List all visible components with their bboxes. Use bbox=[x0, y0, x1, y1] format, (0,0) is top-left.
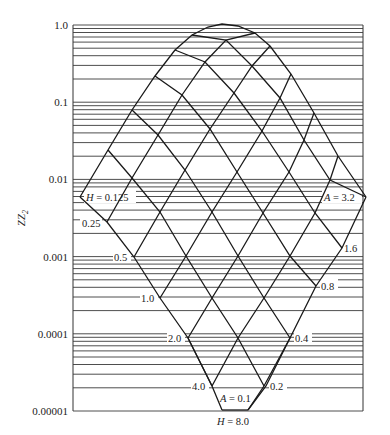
label-a-32: A = 3.2 bbox=[323, 192, 355, 203]
label-a-04: 0.4 bbox=[295, 333, 309, 344]
label-h-80: H = 8.0 bbox=[216, 416, 249, 427]
label-a-08: 0.8 bbox=[321, 281, 334, 292]
label-h-025: 0.25 bbox=[82, 218, 100, 229]
label-a-02: 0.2 bbox=[270, 381, 283, 392]
label-h-10: 1.0 bbox=[141, 293, 154, 304]
label-a-01: A = 0.1 bbox=[219, 393, 251, 404]
y-tick-1: 1.0 bbox=[54, 19, 68, 31]
right-lower-boundary bbox=[248, 197, 366, 410]
y-tick-0.0001: 0.0001 bbox=[38, 328, 68, 340]
y-axis-label: ZZ2 bbox=[15, 210, 30, 226]
falling-line-4 bbox=[175, 50, 342, 248]
y-tick-0.01: 0.01 bbox=[49, 173, 68, 185]
label-a-16: 1.6 bbox=[344, 243, 357, 254]
y-tick-labels: 1.0 0.1 0.01 0.001 0.0001 0.00001 bbox=[32, 19, 68, 417]
nomograph-lattice bbox=[80, 24, 366, 410]
a-labels: A = 3.2 1.6 0.8 0.4 0.2 A = 0.1 bbox=[219, 192, 357, 404]
y-tick-0.001: 0.001 bbox=[43, 251, 68, 263]
h-labels: H = 0.125 0.25 0.5 1.0 2.0 4.0 H = 8.0 bbox=[82, 192, 249, 427]
y-tick-0.1: 0.1 bbox=[54, 96, 68, 108]
label-h-05: 0.5 bbox=[114, 252, 127, 263]
label-h-20: 2.0 bbox=[168, 333, 181, 344]
rising-line-4 bbox=[188, 113, 314, 338]
label-h-0125: H = 0.125 bbox=[85, 192, 128, 203]
chart-svg: 1.0 0.1 0.01 0.001 0.0001 0.00001 ZZ2 bbox=[0, 0, 390, 435]
falling-line-6 bbox=[188, 338, 212, 386]
rising-line-5 bbox=[212, 156, 338, 386]
falling-line-2 bbox=[132, 110, 290, 338]
svg-text:ZZ2: ZZ2 bbox=[15, 210, 30, 226]
label-h-40: 4.0 bbox=[192, 381, 205, 392]
y-tick-0.00001: 0.00001 bbox=[32, 405, 68, 417]
